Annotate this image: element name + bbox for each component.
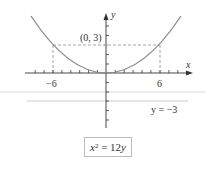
equation-exponent: 2 (95, 142, 99, 150)
equation-rhs-var: y (121, 141, 126, 153)
equation-middle: = 12 (98, 141, 121, 153)
equation-box: x2 = 12y (84, 137, 132, 157)
focus-label: (0, 3) (80, 33, 102, 43)
parabola-figure: y x (0, 3) −6 6 y = −3 x2 = 12y (0, 0, 206, 170)
y-axis (104, 13, 110, 128)
x-axis-arrow-icon (186, 71, 193, 76)
directrix-label: y = −3 (151, 105, 177, 115)
focus-point (104, 43, 107, 46)
tick-label-six: 6 (157, 79, 162, 89)
tick-label-neg-six: −6 (46, 79, 57, 89)
y-axis-arrow-icon (104, 13, 109, 20)
y-axis-label: y (111, 10, 115, 20)
x-axis-label: x (186, 60, 190, 70)
